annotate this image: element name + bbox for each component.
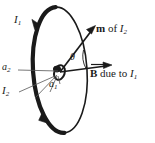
label-moment-text: of — [105, 22, 120, 34]
moment-vector-arrow — [60, 26, 96, 73]
label-radius-a2: a2 — [2, 62, 11, 72]
label-moment-current-symbol: I — [120, 22, 124, 34]
label-field-text: due to — [97, 67, 130, 79]
label-radius-a2-subscript: 2 — [7, 66, 11, 74]
label-current-I2: I2 — [2, 85, 9, 96]
label-field-vector: B due to I1 — [90, 68, 137, 79]
label-radius-a1: a1 — [49, 79, 58, 89]
label-field-current-subscript: 1 — [134, 73, 138, 81]
label-current-I1: I1 — [14, 14, 21, 25]
label-moment-vector: m of I2 — [96, 23, 127, 34]
leader-line-a2 — [18, 70, 58, 71]
label-angle-theta: θ — [70, 52, 75, 62]
label-current-I1-subscript: 1 — [18, 19, 22, 27]
label-moment-current-subscript: 2 — [124, 28, 128, 36]
physics-figure: I1 a2 I2 a1 θ m of I2 B due to I1 — [0, 0, 155, 143]
label-radius-a1-subscript: 1 — [54, 83, 58, 91]
label-moment-symbol: m — [96, 22, 105, 34]
label-current-I2-subscript: 2 — [6, 90, 10, 98]
